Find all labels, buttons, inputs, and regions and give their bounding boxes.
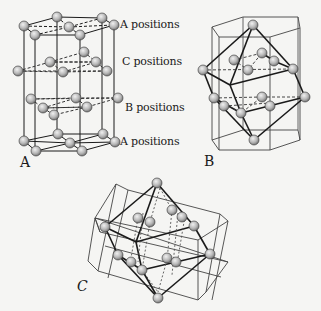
panel-label-b: B [204,153,214,169]
panel-b-atoms [198,20,310,145]
panel-label-c: C [77,278,88,294]
layer-label-a-bottom: A positions [120,135,179,148]
panel-label-a: A [20,154,30,170]
layer-label-c: C positions [122,55,182,68]
crystal-structure-figure [0,0,321,311]
layer-label-b: B positions [125,101,185,114]
layer-label-a-top: A positions [120,18,179,31]
panel-b-diagram [203,17,305,150]
panel-c-diagram [88,183,228,300]
